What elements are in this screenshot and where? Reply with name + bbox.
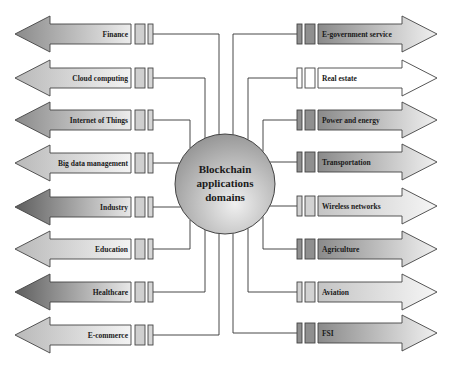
connector-block (305, 110, 315, 130)
connector-block (305, 196, 315, 216)
connector-block (135, 325, 145, 345)
hub-title-line-1: Blockchain (199, 163, 252, 175)
connector-block (305, 323, 315, 343)
domain-arrow-left: E-commerce (15, 317, 153, 353)
domain-label: Agriculture (322, 245, 360, 254)
domain-label: Cloud computing (72, 74, 128, 83)
connector-line (233, 34, 297, 135)
connector-block (135, 110, 145, 130)
blockchain-domains-diagram: FinanceCloud computingInternet of Things… (0, 0, 458, 369)
connector-block (305, 152, 315, 172)
domain-label: Internet of Things (70, 116, 128, 125)
connector-line (248, 228, 297, 292)
connector-tab (297, 110, 302, 130)
connector-tab (297, 152, 302, 172)
connector-block (305, 68, 315, 88)
domain-arrow-right: Agriculture (297, 231, 437, 267)
connector-line (233, 233, 297, 333)
domain-label: Big data management (58, 159, 129, 168)
domain-arrow-left: Internet of Things (15, 102, 153, 138)
connector-block (305, 239, 315, 259)
domain-arrow-left: Finance (15, 16, 153, 52)
connector-tab (297, 24, 302, 44)
domain-label: Industry (100, 203, 128, 212)
domain-arrow-right: E-government service (297, 16, 437, 52)
connector-line (263, 120, 297, 152)
connector-line (153, 34, 219, 134)
connector-block (305, 24, 315, 44)
domain-arrow-right: Aviation (297, 274, 437, 310)
domain-arrow-left: Industry (15, 189, 153, 225)
connector-block (135, 239, 145, 259)
right-domain-arrows: E-government serviceReal estatePower and… (297, 16, 437, 351)
domain-arrow-right: Power and energy (297, 102, 437, 138)
connector-block (135, 197, 145, 217)
connector-tab (148, 110, 153, 130)
connector-line (153, 120, 190, 148)
domain-label: E-government service (322, 30, 392, 39)
arrow-right-shape (318, 315, 437, 351)
connector-tab (148, 24, 153, 44)
domain-arrow-left: Big data management (15, 145, 153, 181)
connector-block (305, 282, 315, 302)
domain-arrow-right: Transportation (297, 144, 437, 180)
connector-tab (148, 153, 153, 173)
connector-tab (297, 282, 302, 302)
connector-block (135, 68, 145, 88)
connector-line (248, 78, 297, 140)
domain-label: Wireless networks (322, 202, 381, 211)
domain-arrow-right: Wireless networks (297, 188, 437, 224)
domain-label: Transportation (322, 158, 371, 167)
domain-label: Real estate (322, 74, 357, 83)
connector-tab (297, 68, 302, 88)
connector-tab (148, 197, 153, 217)
hub-title-line-2: applications (197, 177, 255, 189)
domain-label: Education (95, 245, 129, 254)
domain-label: E-commerce (88, 331, 129, 340)
domain-label: Healthcare (93, 288, 129, 297)
connector-tab (148, 239, 153, 259)
domain-label: Power and energy (322, 116, 380, 125)
connector-block (135, 24, 145, 44)
hub-title-line-3: domains (205, 191, 245, 203)
connector-line (153, 230, 205, 292)
connector-tab (148, 325, 153, 345)
connector-tab (297, 239, 302, 259)
connector-block (135, 153, 145, 173)
connector-tab (297, 196, 302, 216)
connector-tab (148, 282, 153, 302)
domain-arrow-right: Real estate (297, 60, 437, 96)
connector-line (153, 78, 205, 138)
domain-arrow-left: Cloud computing (15, 60, 153, 96)
connector-line (263, 217, 297, 250)
domain-label: FSI (322, 329, 334, 338)
center-hub: Blockchain applications domains (175, 134, 275, 234)
domain-arrow-right: FSI (297, 315, 437, 351)
left-domain-arrows: FinanceCloud computingInternet of Things… (15, 16, 153, 353)
domain-arrow-left: Healthcare (15, 274, 153, 310)
connector-tab (297, 323, 302, 343)
connector-tab (148, 68, 153, 88)
domain-label: Finance (103, 30, 129, 39)
domain-label: Aviation (322, 288, 350, 297)
connector-line (153, 220, 190, 249)
connector-block (135, 282, 145, 302)
domain-arrow-left: Education (15, 231, 153, 267)
